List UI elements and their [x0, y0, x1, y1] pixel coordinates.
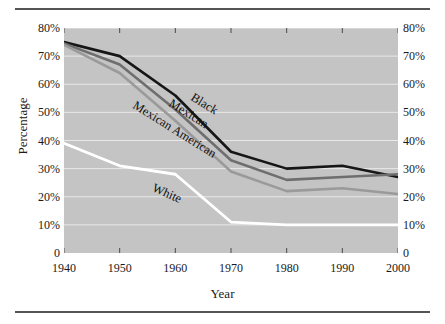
y-tick-label-right: 50%: [403, 106, 425, 118]
figure-container: Percentage Year 010%20%30%40%50%60%70%80…: [0, 0, 445, 324]
series-line-white: [64, 143, 398, 225]
x-tick-label: 1990: [318, 262, 366, 274]
x-tick-label: 1970: [207, 262, 255, 274]
chart-canvas: [64, 28, 398, 253]
x-tick-label: 1980: [263, 262, 311, 274]
y-tick-label-right: 0: [403, 247, 409, 259]
y-tick-label-left: 30%: [38, 163, 60, 175]
top-rule: [15, 8, 430, 10]
x-tick-label: 1950: [96, 262, 144, 274]
bottom-rule: [15, 311, 430, 313]
series-line-mexican: [64, 43, 398, 179]
y-tick-label-left: 0: [54, 247, 60, 259]
plot-area: [64, 28, 398, 253]
x-axis-title: Year: [0, 286, 445, 302]
y-tick-label-left: 10%: [38, 219, 60, 231]
y-tick-label-right: 70%: [403, 50, 425, 62]
series-line-mexican-american: [64, 45, 398, 194]
y-tick-label-right: 20%: [403, 191, 425, 203]
y-tick-label-right: 80%: [403, 22, 425, 34]
y-tick-label-right: 30%: [403, 163, 425, 175]
y-tick-label-left: 40%: [38, 135, 60, 147]
y-tick-label-left: 70%: [38, 50, 60, 62]
x-tick-label: 1940: [40, 262, 88, 274]
y-tick-label-right: 60%: [403, 78, 425, 90]
y-tick-label-right: 10%: [403, 219, 425, 231]
y-tick-label-left: 20%: [38, 191, 60, 203]
y-tick-label-left: 80%: [38, 22, 60, 34]
x-tick-label: 1960: [151, 262, 199, 274]
y-axis-title: Percentage: [15, 56, 31, 196]
y-tick-label-right: 40%: [403, 135, 425, 147]
y-tick-label-left: 50%: [38, 106, 60, 118]
x-tick-label: 2000: [374, 262, 422, 274]
y-tick-label-left: 60%: [38, 78, 60, 90]
